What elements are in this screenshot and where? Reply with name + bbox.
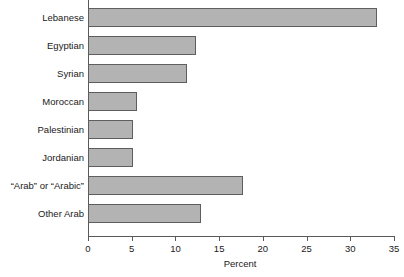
bar xyxy=(88,92,137,111)
x-axis-tick-label: 10 xyxy=(160,243,190,254)
category-label: Lebanese xyxy=(0,8,84,27)
x-axis-tick-label: 35 xyxy=(379,243,404,254)
category-label: Egyptian xyxy=(0,36,84,55)
bar xyxy=(88,120,133,139)
bar-fill xyxy=(88,204,201,223)
x-axis-tick-label: 5 xyxy=(117,243,147,254)
category-label: Palestinian xyxy=(0,120,84,139)
bar xyxy=(88,8,377,27)
x-axis-tick xyxy=(132,236,133,241)
category-label-group: LebaneseEgyptianSyrianMoroccanPalestinia… xyxy=(0,0,84,236)
x-axis-tick xyxy=(263,236,264,241)
bar-fill xyxy=(88,120,133,139)
x-axis-tick-label: 20 xyxy=(248,243,278,254)
x-axis-tick-label: 25 xyxy=(292,243,322,254)
category-label: Other Arab xyxy=(0,204,84,223)
x-axis-tick xyxy=(394,236,395,241)
x-axis-tick-label: 30 xyxy=(335,243,365,254)
x-axis-tick xyxy=(175,236,176,241)
x-axis-tick xyxy=(88,236,89,241)
x-axis-tick-label: 0 xyxy=(73,243,103,254)
x-axis-tick xyxy=(350,236,351,241)
x-axis-title-label: Percent xyxy=(224,258,257,269)
bar xyxy=(88,36,196,55)
bar-fill xyxy=(88,176,243,195)
x-axis-line xyxy=(88,236,394,237)
bar-fill xyxy=(88,92,137,111)
x-axis-title: Percent xyxy=(0,258,404,269)
bar-fill xyxy=(88,148,133,167)
plot-area xyxy=(88,0,394,236)
bar xyxy=(88,204,201,223)
x-axis-tick-label: 15 xyxy=(204,243,234,254)
bar-chart: LebaneseEgyptianSyrianMoroccanPalestinia… xyxy=(0,0,404,277)
bar xyxy=(88,176,243,195)
category-label: Jordanian xyxy=(0,148,84,167)
category-label: Moroccan xyxy=(0,92,84,111)
bar xyxy=(88,148,133,167)
bar-fill xyxy=(88,8,377,27)
category-label: Syrian xyxy=(0,64,84,83)
category-label: “Arab” or “Arabic” xyxy=(0,176,84,195)
x-axis-tick xyxy=(219,236,220,241)
bar-fill xyxy=(88,36,196,55)
bar-fill xyxy=(88,64,187,83)
x-axis-tick xyxy=(307,236,308,241)
bar xyxy=(88,64,187,83)
